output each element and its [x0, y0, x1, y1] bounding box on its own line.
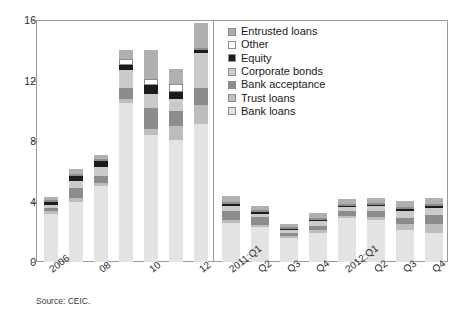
legend-label: Bank acceptance — [241, 79, 325, 90]
legend-label: Equity — [241, 53, 272, 64]
legend-label: Other — [241, 39, 269, 50]
x-tick-label: Q4 — [314, 258, 331, 275]
legend-label: Trust loans — [241, 93, 295, 104]
x-tick-label: Q4 — [430, 258, 447, 275]
source-note: Source: CEIC. — [36, 296, 90, 306]
x-tick-label: Q3 — [285, 258, 302, 275]
x-tick-label: Q2 — [372, 258, 389, 275]
legend-swatch-icon — [228, 41, 236, 49]
legend-swatch-icon — [228, 94, 236, 102]
legend-swatch-icon — [228, 81, 236, 89]
legend-item-trust-loans[interactable]: Trust loans — [228, 91, 325, 104]
legend-label: Entrusted loans — [241, 26, 317, 37]
legend-swatch-icon — [228, 28, 236, 36]
x-tick-label: 2006 — [47, 252, 71, 274]
x-tick-label: Q2 — [256, 258, 273, 275]
legend-item-other[interactable]: Other — [228, 38, 325, 51]
legend-item-equity[interactable]: Equity — [228, 52, 325, 65]
x-tick-label: 08 — [97, 259, 113, 275]
legend-item-entrusted-loans[interactable]: Entrusted loans — [228, 25, 325, 38]
x-axis-labels: 20060810122011:Q1Q2Q3Q42012:Q1Q2Q3Q4 — [0, 0, 454, 317]
x-tick-label: 12 — [197, 259, 213, 275]
legend-swatch-icon — [228, 107, 236, 115]
legend-swatch-icon — [228, 54, 236, 62]
legend-swatch-icon — [228, 68, 236, 76]
legend-label: Bank loans — [241, 106, 295, 117]
chart-figure: 0481216 20060810122011:Q1Q2Q3Q42012:Q1Q2… — [0, 0, 454, 317]
legend-item-bank-loans[interactable]: Bank loans — [228, 105, 325, 118]
chart-legend: Entrusted loansOtherEquityCorporate bond… — [228, 25, 325, 118]
x-tick-label: 10 — [147, 259, 163, 275]
x-tick-label: Q3 — [401, 258, 418, 275]
legend-label: Corporate bonds — [241, 66, 323, 77]
legend-item-corporate-bonds[interactable]: Corporate bonds — [228, 65, 325, 78]
legend-item-bank-acceptance[interactable]: Bank acceptance — [228, 78, 325, 91]
